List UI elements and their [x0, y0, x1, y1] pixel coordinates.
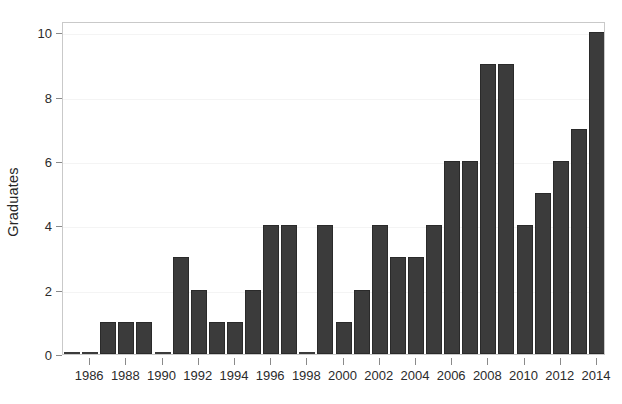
x-tick-label: 2008 — [473, 368, 502, 383]
x-tick-mark — [379, 358, 380, 365]
y-tick-label: 10 — [38, 26, 52, 41]
bar — [281, 225, 297, 354]
bar — [480, 64, 496, 354]
x-tick-label: 2004 — [400, 368, 429, 383]
x-tick-mark — [162, 358, 163, 365]
y-tick-label: 4 — [45, 219, 52, 234]
x-tick-label: 1994 — [219, 368, 248, 383]
x-tick-mark — [270, 358, 271, 365]
x-tick-label: 2010 — [509, 368, 538, 383]
bar — [372, 225, 388, 354]
x-tick-label: 1998 — [292, 368, 321, 383]
bar — [589, 32, 605, 354]
bar — [245, 290, 261, 354]
bar — [155, 352, 171, 354]
bar — [444, 161, 460, 354]
bar-chart: Graduates 0246810 1986198819901992199419… — [0, 0, 622, 404]
x-tick-mark — [451, 358, 452, 365]
x-tick-mark — [89, 358, 90, 365]
x-tick-label: 2012 — [545, 368, 574, 383]
x-tick-label: 2014 — [581, 368, 610, 383]
x-tick-mark — [125, 358, 126, 365]
x-tick-label: 1990 — [147, 368, 176, 383]
bar — [408, 257, 424, 354]
x-axis: 1986198819901992199419961998200020022004… — [0, 356, 622, 404]
y-tick-label: 6 — [45, 154, 52, 169]
bar — [535, 193, 551, 354]
bar — [571, 129, 587, 354]
bar — [354, 290, 370, 354]
x-tick-label: 2002 — [364, 368, 393, 383]
bar — [299, 352, 315, 354]
x-tick-label: 2000 — [328, 368, 357, 383]
bar — [64, 352, 80, 354]
bar — [553, 161, 569, 354]
x-tick-mark — [415, 358, 416, 365]
x-tick-label: 1986 — [75, 368, 104, 383]
x-tick-mark — [234, 358, 235, 365]
bar — [191, 290, 207, 354]
x-tick-mark — [524, 358, 525, 365]
bar — [100, 322, 116, 354]
bar — [263, 225, 279, 354]
x-tick-mark — [198, 358, 199, 365]
x-tick-mark — [343, 358, 344, 365]
bar — [227, 322, 243, 354]
x-tick-label: 1996 — [256, 368, 285, 383]
x-tick-label: 1992 — [183, 368, 212, 383]
bar — [118, 322, 134, 354]
bar — [317, 225, 333, 354]
x-tick-label: 2006 — [437, 368, 466, 383]
bar — [209, 322, 225, 354]
y-tick-label: 8 — [45, 90, 52, 105]
y-axis-title: Graduates — [0, 0, 26, 404]
bar — [517, 225, 533, 354]
bar — [82, 352, 98, 354]
bar — [336, 322, 352, 354]
x-tick-mark — [596, 358, 597, 365]
y-tick-label: 2 — [45, 283, 52, 298]
bar — [462, 161, 478, 354]
x-tick-mark — [487, 358, 488, 365]
bar — [136, 322, 152, 354]
bar — [390, 257, 406, 354]
x-tick-mark — [306, 358, 307, 365]
bar — [173, 257, 189, 354]
x-tick-label: 1988 — [111, 368, 140, 383]
x-tick-mark — [560, 358, 561, 365]
bar — [426, 225, 442, 354]
bars-layer — [63, 23, 604, 354]
bar — [498, 64, 514, 354]
plot-area — [62, 22, 605, 355]
